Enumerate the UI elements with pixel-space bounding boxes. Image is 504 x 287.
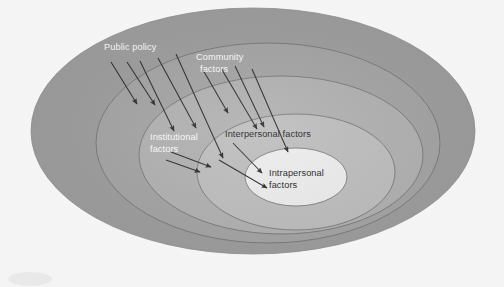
scan-smudge-artifact: [8, 272, 52, 286]
diagram-canvas: Public policy Community factors Institut…: [0, 0, 504, 287]
social-ecological-model-diagram: Public policy Community factors Institut…: [0, 0, 504, 287]
scan-tint-overlay: [0, 0, 504, 287]
